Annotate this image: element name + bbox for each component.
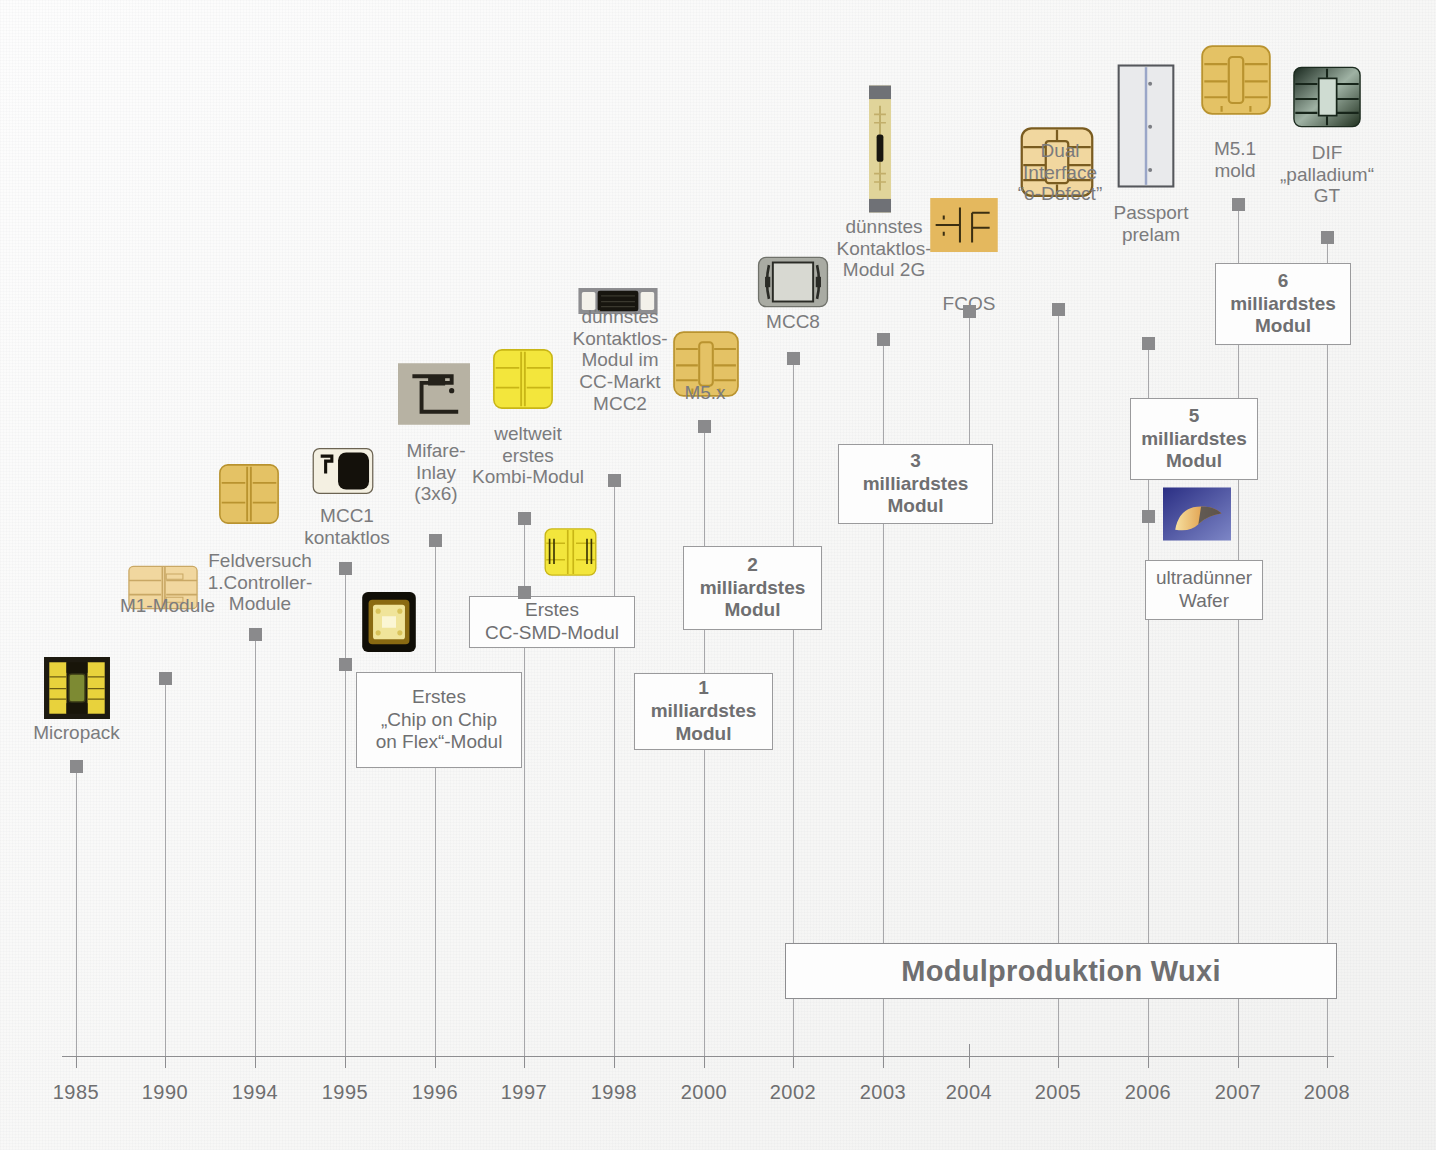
timeline-axis xyxy=(62,1056,1334,1057)
stem-fcos xyxy=(969,318,970,444)
event-marker-mifare-inlay[interactable] xyxy=(429,534,442,547)
event-marker-mcc8[interactable] xyxy=(787,352,800,365)
stem-mcc2-1 xyxy=(614,648,615,1056)
axis-year-label-1995: 1995 xyxy=(300,1081,390,1104)
event-marker-m51-mold[interactable] xyxy=(1232,198,1245,211)
stem-micropack xyxy=(76,773,77,1056)
axis-year-label-2000: 2000 xyxy=(659,1081,749,1104)
stem-feldversuch xyxy=(255,641,256,1056)
event-label-mcc1-kontaktlos: MCC1 kontaktlos xyxy=(288,505,406,548)
milestone-box-chip-on-chip: Erstes „Chip on Chip on Flex“-Modul xyxy=(356,672,522,768)
stem-m5x xyxy=(704,433,705,546)
wuxi-banner: Modulproduktion Wuxi xyxy=(785,943,1337,999)
event-marker-mcc1-kontaktlos[interactable] xyxy=(339,562,352,575)
stem-milliard-2 xyxy=(704,630,705,673)
axis-year-label-1990: 1990 xyxy=(120,1081,210,1104)
axis-year-label-1996: 1996 xyxy=(390,1081,480,1104)
event-label-dif-palladium: DIF „palladium“ GT xyxy=(1272,142,1382,207)
event-label-mcc8: MCC8 xyxy=(745,311,841,333)
stem-kontaktlos-2g xyxy=(883,346,884,444)
event-marker-dual-interface[interactable] xyxy=(1052,303,1065,316)
event-label-kontaktlos-2g: dünnstes Kontaktlos- Modul 2G xyxy=(824,216,944,281)
event-marker-fcos[interactable] xyxy=(963,305,976,318)
chip-image-wafer xyxy=(1163,487,1231,541)
stem-chip-on-chip-1 xyxy=(345,768,346,1056)
event-label-passport-prelam: Passport prelam xyxy=(1105,202,1197,245)
chip-image-palladium xyxy=(1292,66,1362,128)
event-marker-ultraduenner[interactable] xyxy=(1142,510,1155,523)
stem-milliard-1 xyxy=(704,750,705,1056)
event-marker-dif-palladium[interactable] xyxy=(1321,231,1334,244)
chip-image-mcc1 xyxy=(312,447,374,495)
event-marker-m5x[interactable] xyxy=(698,420,711,433)
stem-cc-smd-modul xyxy=(524,648,525,1056)
chip-image-chip-on-chip xyxy=(362,592,416,652)
timeline-canvas: 1985199019941995199619971998200020022003… xyxy=(0,0,1436,1150)
chip-image-mifare xyxy=(398,363,470,425)
chip-image-feldversuch xyxy=(218,463,280,525)
axis-year-label-1997: 1997 xyxy=(479,1081,569,1104)
event-label-feldversuch: Feldversuch 1.Controller- Module xyxy=(190,550,330,615)
stem-milliard-5 xyxy=(1148,480,1149,510)
axis-year-label-2003: 2003 xyxy=(838,1081,928,1104)
axis-year-label-2002: 2002 xyxy=(748,1081,838,1104)
milestone-box-ultraduenner: ultradünner Wafer xyxy=(1145,560,1263,620)
stem-m1-module xyxy=(165,685,166,1056)
chip-image-kombi xyxy=(492,348,554,410)
event-marker-mcc2[interactable] xyxy=(608,474,621,487)
stem-dif-palladium xyxy=(1327,244,1328,1056)
milestone-box-milliard-3: 3 milliardstes Modul xyxy=(838,444,993,524)
axis-year-label-2004: 2004 xyxy=(924,1081,1014,1104)
milestone-box-milliard-5: 5 milliardstes Modul xyxy=(1130,398,1258,480)
milestone-box-milliard-6: 6 milliardstes Modul xyxy=(1215,263,1351,345)
event-marker-kombi-modul[interactable] xyxy=(518,512,531,525)
milestone-box-cc-smd-modul: Erstes CC-SMD-Modul xyxy=(469,596,635,648)
stem-mcc1-kontaktlos xyxy=(345,575,346,658)
stem-mcc2 xyxy=(614,487,615,596)
chip-image-kontaktlos2g xyxy=(869,85,891,213)
stem-kombi-modul xyxy=(524,525,525,586)
stem-passport-prelam xyxy=(1148,350,1149,398)
chip-image-mcc8 xyxy=(757,256,829,308)
chip-image-micropack xyxy=(44,657,110,719)
event-label-m51-mold: M5.1 mold xyxy=(1190,138,1280,181)
stem-m51-mold xyxy=(1238,211,1239,263)
chip-image-fcos xyxy=(930,198,998,252)
event-marker-kontaktlos-2g[interactable] xyxy=(877,333,890,346)
axis-year-label-2007: 2007 xyxy=(1193,1081,1283,1104)
event-label-m5x: M5.x xyxy=(655,382,755,404)
stem-mifare-inlay xyxy=(435,547,436,1056)
event-label-kombi-modul: weltweit erstes Kombi-Modul xyxy=(470,423,586,488)
event-marker-cc-smd-modul[interactable] xyxy=(518,586,531,599)
event-marker-chip-on-chip[interactable] xyxy=(339,658,352,671)
event-marker-micropack[interactable] xyxy=(70,760,83,773)
event-label-dual-interface: Dual Interface “o-Defect” xyxy=(1005,140,1115,205)
event-label-micropack: Micropack xyxy=(0,722,159,744)
axis-year-label-2005: 2005 xyxy=(1013,1081,1103,1104)
chip-image-passport xyxy=(1117,59,1175,193)
event-marker-passport-prelam[interactable] xyxy=(1142,337,1155,350)
axis-year-label-2006: 2006 xyxy=(1103,1081,1193,1104)
axis-year-label-1994: 1994 xyxy=(210,1081,300,1104)
event-marker-feldversuch[interactable] xyxy=(249,628,262,641)
axis-year-label-1998: 1998 xyxy=(569,1081,659,1104)
axis-year-label-2008: 2008 xyxy=(1282,1081,1372,1104)
event-marker-m1-module[interactable] xyxy=(159,672,172,685)
milestone-box-milliard-1: 1 milliardstes Modul xyxy=(634,673,773,750)
chip-image-ccsmd xyxy=(543,524,598,580)
axis-year-label-1985: 1985 xyxy=(31,1081,121,1104)
chip-image-m51 xyxy=(1200,44,1272,116)
axis-tick-2004 xyxy=(969,1044,970,1068)
milestone-box-milliard-2: 2 milliardstes Modul xyxy=(683,546,822,630)
